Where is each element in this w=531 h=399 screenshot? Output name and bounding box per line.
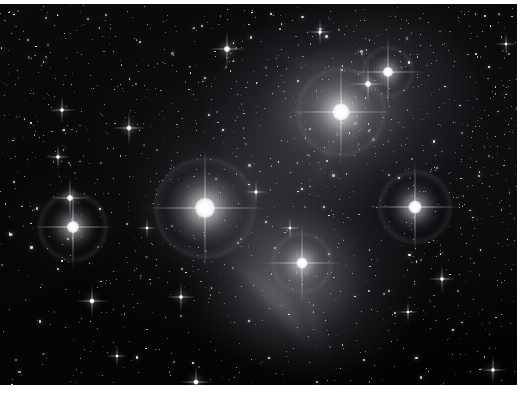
bottom-margin xyxy=(0,385,531,399)
astrophoto-viewport: Black and white astronomical photograph … xyxy=(0,0,531,399)
top-margin xyxy=(0,0,531,4)
right-edge-glow-band xyxy=(517,4,531,385)
astrophoto-image xyxy=(0,4,517,385)
sky-background xyxy=(0,4,517,385)
